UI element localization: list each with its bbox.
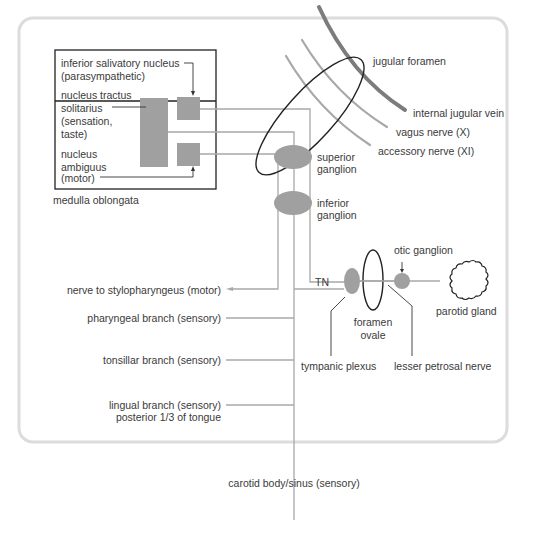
sensory-fibre (168, 132, 294, 520)
label-lesser-petrosal-nerve: lesser petrosal nerve (394, 360, 491, 373)
label-foramen: foramen (348, 316, 398, 329)
label-tonsillar-branch: tonsillar branch (sensory) (20, 354, 221, 367)
label-nerve-to-stylopharyngeus: nerve to stylopharyngeus (motor) (20, 284, 221, 297)
inferior-salivatory-nucleus-block (177, 97, 200, 120)
label-tn: TN (315, 276, 329, 289)
label-superior: superior (317, 151, 355, 164)
isn-pointer (184, 63, 193, 93)
label-nucleus-tractus: nucleus tractus (61, 89, 132, 102)
parasympathetic-fibre (200, 109, 345, 282)
glossopharyngeal-diagram: inferior salivatory nucleus (parasympath… (0, 0, 556, 533)
label-taste: taste) (61, 128, 87, 141)
label-tympanic-plexus: tympanic plexus (301, 360, 376, 373)
label-otic-ganglion: otic ganglion (394, 244, 453, 257)
label-inferior: inferior (317, 197, 349, 210)
label-vagus-nerve: vagus nerve (X) (396, 126, 470, 139)
label-solitarius: solitarius (61, 102, 102, 115)
foramen-ovale-ellipse (363, 250, 383, 310)
label-parasympathetic: (parasympathetic) (61, 70, 145, 83)
parotid-gland-shape (450, 261, 488, 300)
tympanic-plexus-shape (344, 268, 360, 294)
nucleus-ambiguus-block (177, 143, 200, 166)
tympanic-pointer (331, 297, 345, 356)
motor-arrowhead (226, 287, 233, 291)
label-accessory-nerve: accessory nerve (XI) (378, 145, 474, 158)
inferior-ganglion-shape (274, 191, 312, 215)
otic-ganglion-shape (394, 273, 410, 289)
label-sensation: (sensation, (61, 115, 112, 128)
label-inferior-ganglion: ganglion (317, 209, 357, 222)
label-internal-jugular-vein: internal jugular vein (413, 107, 504, 120)
label-medulla-oblongata: medulla oblongata (53, 194, 139, 207)
label-nucleus: nucleus (61, 148, 97, 161)
label-carotid-body-sinus: carotid body/sinus (sensory) (194, 477, 394, 490)
na-pointer (100, 170, 193, 177)
label-superior-ganglion: ganglion (317, 163, 357, 176)
label-ovale: ovale (348, 329, 398, 342)
superior-ganglion-shape (274, 145, 312, 169)
label-inferior-salivatory-nucleus: inferior salivatory nucleus (61, 57, 179, 70)
label-posterior-tongue: posterior 1/3 of tongue (20, 411, 221, 424)
label-motor: (motor) (61, 172, 95, 185)
label-jugular-foramen: jugular foramen (373, 55, 446, 68)
label-lingual-branch: lingual branch (sensory) (20, 399, 221, 412)
label-pharyngeal-branch: pharyngeal branch (sensory) (20, 312, 221, 325)
label-parotid-gland: parotid gland (436, 305, 497, 318)
nucleus-tractus-solitarius-block (140, 98, 168, 167)
